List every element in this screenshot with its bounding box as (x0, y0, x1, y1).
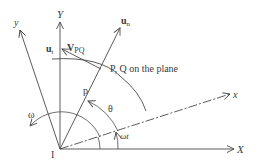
x-axis-label: x (232, 89, 238, 100)
X-axis-label: X (236, 143, 245, 155)
inner-arc (98, 137, 100, 149)
plane-point-label: P, Q on the plane (110, 63, 179, 74)
x-axis-arrow (60, 94, 230, 149)
diagram-canvas: X Y x y un ut VPQ P, Q on the plane p θ … (0, 0, 257, 164)
omega-t-label: ωt (120, 131, 129, 141)
ut-label: ut (46, 43, 54, 56)
un-label: un (121, 15, 131, 28)
omega-t-arc (116, 132, 118, 149)
kinematics-diagram: X Y x y un ut VPQ P, Q on the plane p θ … (0, 0, 257, 164)
theta-label: θ (108, 103, 113, 114)
omega-label: ω (28, 109, 35, 120)
omega-arc (30, 112, 100, 137)
p-label: p (83, 85, 88, 96)
Y-axis-label: Y (57, 8, 65, 20)
theta-arc (88, 101, 118, 131)
y-axis-label: y (13, 17, 19, 28)
origin-label: I (51, 149, 54, 160)
y-axis-arrow (20, 30, 60, 149)
